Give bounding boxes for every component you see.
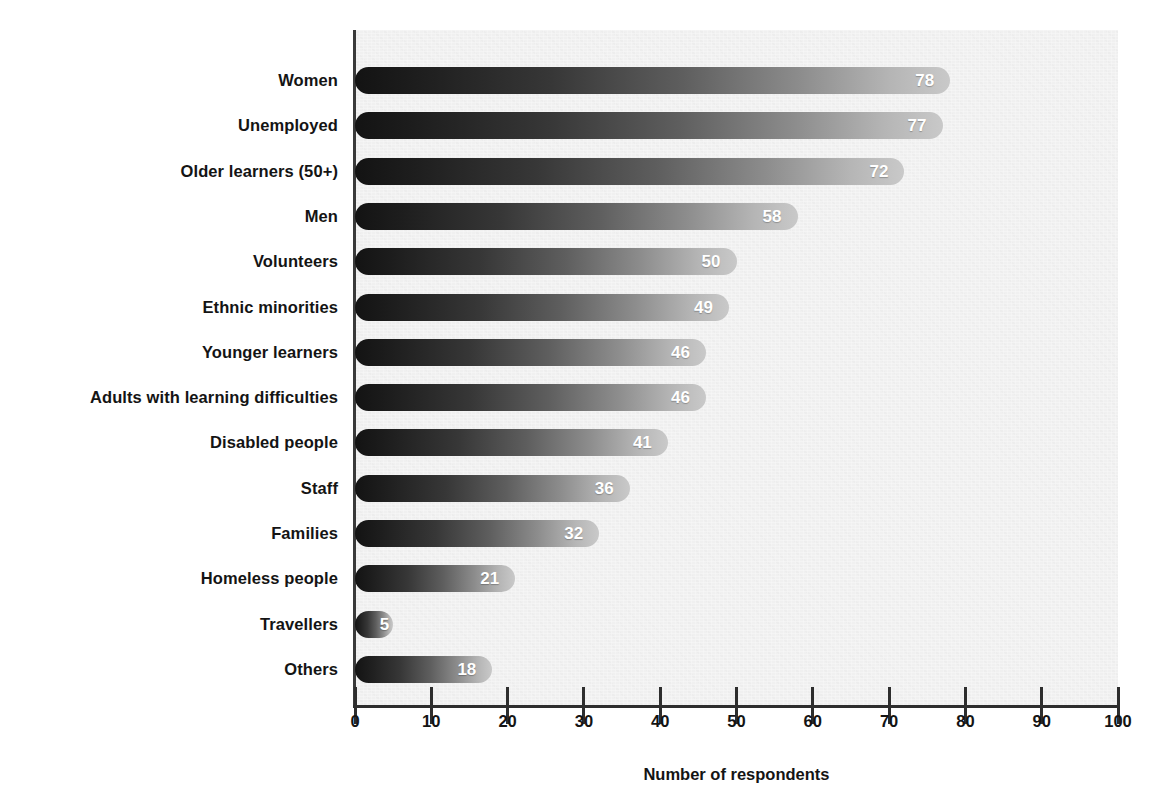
bar-row: Families32	[0, 511, 1151, 555]
bar-track: 58	[355, 194, 1118, 238]
bar-track: 36	[355, 466, 1118, 510]
x-axis-title: Number of respondents	[355, 765, 1118, 784]
bar-row: Ethnic minorities49	[0, 285, 1151, 329]
category-label: Ethnic minorities	[0, 285, 338, 329]
bar-value-label: 21	[355, 565, 499, 592]
bar-value-label: 78	[355, 67, 934, 94]
category-label: Travellers	[0, 602, 338, 646]
bar-value-label: 46	[355, 339, 690, 366]
x-axis-tick-label: 20	[478, 712, 538, 731]
bar-value-label: 58	[355, 203, 782, 230]
bar-track: 72	[355, 149, 1118, 193]
bar-value-label: 18	[355, 656, 476, 683]
bar-value-label: 49	[355, 294, 713, 321]
x-axis-tick-label: 0	[325, 712, 385, 731]
category-label: Volunteers	[0, 239, 338, 283]
bar-row: Older learners (50+)72	[0, 149, 1151, 193]
bar-row: Unemployed77	[0, 103, 1151, 147]
x-axis-tick-label: 70	[859, 712, 919, 731]
bar-track: 32	[355, 511, 1118, 555]
x-axis-tick-label: 90	[1012, 712, 1072, 731]
bar-value-label: 32	[355, 520, 583, 547]
bar-track: 46	[355, 330, 1118, 374]
bar-track: 18	[355, 647, 1118, 691]
category-label: Staff	[0, 466, 338, 510]
bar-row: Volunteers50	[0, 239, 1151, 283]
bar-row: Adults with learning difficulties46	[0, 375, 1151, 419]
x-axis-tick-label: 40	[630, 712, 690, 731]
bar-value-label: 36	[355, 475, 614, 502]
bar-track: 5	[355, 602, 1118, 646]
bar-row: Men58	[0, 194, 1151, 238]
category-label: Families	[0, 511, 338, 555]
bar-track: 21	[355, 556, 1118, 600]
bar-row: Women78	[0, 58, 1151, 102]
bar-row: Younger learners46	[0, 330, 1151, 374]
x-axis-tick-label: 80	[935, 712, 995, 731]
bar-value-label: 46	[355, 384, 690, 411]
bar-row: Homeless people21	[0, 556, 1151, 600]
category-label: Adults with learning difficulties	[0, 375, 338, 419]
category-label: Older learners (50+)	[0, 149, 338, 193]
bar-track: 78	[355, 58, 1118, 102]
bar-track: 50	[355, 239, 1118, 283]
bar-track: 77	[355, 103, 1118, 147]
bar-row: Travellers5	[0, 602, 1151, 646]
bar-value-label: 77	[355, 112, 927, 139]
bar-chart: Women78Unemployed77Older learners (50+)7…	[0, 0, 1151, 809]
category-label: Homeless people	[0, 556, 338, 600]
category-label: Women	[0, 58, 338, 102]
bar-row: Staff36	[0, 466, 1151, 510]
bar-row: Disabled people41	[0, 420, 1151, 464]
x-axis-tick-label: 50	[707, 712, 767, 731]
bar-track: 49	[355, 285, 1118, 329]
bar-value-label: 72	[355, 158, 888, 185]
category-label: Others	[0, 647, 338, 691]
category-label: Younger learners	[0, 330, 338, 374]
bar-row: Others18	[0, 647, 1151, 691]
bar-track: 46	[355, 375, 1118, 419]
category-label: Men	[0, 194, 338, 238]
category-label: Disabled people	[0, 420, 338, 464]
x-axis-tick-label: 60	[783, 712, 843, 731]
category-label: Unemployed	[0, 103, 338, 147]
x-axis-tick-label: 100	[1088, 712, 1148, 731]
x-axis-tick-label: 30	[554, 712, 614, 731]
bar-value-label: 41	[355, 429, 652, 456]
bar-value-label: 50	[355, 248, 721, 275]
bar-value-label: 5	[355, 611, 389, 638]
bar-track: 41	[355, 420, 1118, 464]
x-axis-tick-label: 10	[401, 712, 461, 731]
